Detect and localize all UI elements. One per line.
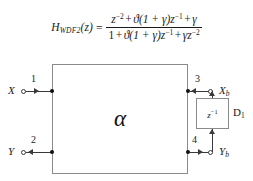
port-number-3: 3 — [195, 73, 200, 84]
signal-xb-base: X — [219, 84, 226, 96]
arrow-out-of-delay — [209, 91, 215, 96]
denominator-term3-exponent: −2 — [192, 28, 200, 37]
numerator-operator1: + — [124, 13, 134, 25]
fraction-numerator: z−2+ϑ(1 + γ)z−1+γ — [109, 13, 199, 27]
wdf2-figure: HWDF2(z) = z−2+ϑ(1 + γ)z−1+γ 1+ϑ(1 + γ)z… — [0, 0, 253, 181]
arrow-port-2-outward — [28, 149, 33, 155]
equation-lhs-base: H — [51, 21, 59, 33]
delay-transfer-label: z−1 — [207, 108, 217, 120]
denominator-operator2: + — [173, 29, 183, 41]
delay-element-box[interactable]: z−1 — [196, 98, 229, 129]
equation-lhs-subscript: WDF2 — [60, 26, 81, 35]
port-number-1: 1 — [31, 73, 36, 84]
node-dot-port-2 — [50, 150, 54, 154]
signal-label-y: Y — [8, 145, 14, 157]
transfer-function-fraction: z−2+ϑ(1 + γ)z−1+γ 1+ϑ(1 + γ)z−1+γz−2 — [106, 13, 201, 43]
signal-xb-subscript: b — [226, 89, 230, 98]
delay-name-base: D — [233, 106, 241, 118]
alpha-symbol-label: α — [52, 64, 188, 174]
numerator-operator2: + — [183, 13, 193, 25]
delay-element-name: D1 — [233, 106, 245, 120]
arrow-port-3-inward — [191, 88, 196, 94]
signal-label-yb: Yb — [219, 145, 229, 159]
numerator-term3: γ — [192, 13, 197, 25]
signal-y-base: Y — [8, 145, 14, 157]
denominator-term3-base: γz — [183, 29, 192, 41]
arrow-port-4-outward — [198, 149, 203, 155]
fraction-denominator: 1+ϑ(1 + γ)z−1+γz−2 — [106, 28, 201, 43]
signal-yb-subscript: b — [225, 150, 229, 159]
equation-lhs-argument: (z) — [80, 21, 92, 33]
signal-label-x: X — [8, 84, 15, 96]
block-diagram: α X 1 Y 2 3 Xb 4 Yb — [0, 50, 253, 181]
denominator-operator1: + — [114, 29, 124, 41]
equals-sign: = — [96, 22, 103, 34]
denominator-term2-base: ϑ(1 + γ)z — [124, 29, 166, 41]
transfer-function-equation: HWDF2(z) = z−2+ϑ(1 + γ)z−1+γ 1+ϑ(1 + γ)z… — [0, 4, 253, 52]
delay-name-subscript: 1 — [241, 111, 245, 120]
port-number-2: 2 — [31, 134, 36, 145]
arrow-into-delay — [209, 129, 215, 134]
numerator-term2-base: ϑ(1 + γ)z — [133, 13, 175, 25]
delay-exponent: −1 — [211, 108, 218, 115]
signal-label-xb: Xb — [219, 84, 229, 98]
port-number-4: 4 — [192, 134, 197, 145]
equation-left-hand-side: HWDF2(z) — [51, 21, 93, 35]
signal-x-base: X — [8, 84, 15, 96]
node-dot-port-1 — [50, 89, 54, 93]
numerator-term2-exponent: −1 — [175, 12, 183, 21]
numerator-term1-exponent: −2 — [116, 12, 124, 21]
arrow-port-1-inward — [34, 88, 39, 94]
